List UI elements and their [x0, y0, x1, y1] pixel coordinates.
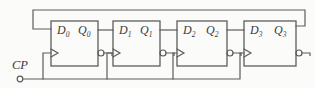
- flipflop-2: D2 Q2: [177, 21, 241, 66]
- clock-wedge-icon: [244, 49, 251, 57]
- d3-input-label: D3: [249, 23, 263, 39]
- clock-wedge-icon: [177, 49, 184, 57]
- d2-input-label: D2: [182, 23, 196, 39]
- q3-output-label: Q3: [274, 23, 287, 39]
- inverter-bubble-icon: [160, 50, 166, 56]
- q2-output-label: Q2: [206, 23, 219, 39]
- d1-input-label: D1: [118, 23, 131, 39]
- q1-output-label: Q1: [140, 23, 152, 39]
- flipflop-1: D1 Q1: [113, 21, 174, 66]
- qbar-stub-wire: [302, 53, 310, 56]
- clock-wedge-icon: [51, 49, 58, 57]
- d0-input-label: D0: [56, 23, 70, 39]
- flipflop-3: D3 Q3: [244, 21, 310, 66]
- inverter-bubble-icon: [227, 50, 233, 56]
- ring-counter-circuit-diagram: CP D0 Q0 D1 Q1 D2 Q2 D3 Q3: [0, 0, 315, 88]
- qbar-stub-wire: [104, 53, 112, 56]
- cp-label: CP: [12, 58, 28, 72]
- q0-output-label: Q0: [78, 23, 91, 39]
- clock-branch-ff1-wire: [107, 53, 113, 79]
- clock-branch-ff0-wire: [43, 53, 51, 79]
- inverter-bubble-icon: [296, 50, 302, 56]
- feedback-wire-q3-to-d0: [33, 10, 305, 29]
- flipflop-0: D0 Q0: [51, 21, 112, 66]
- clock-wedge-icon: [113, 49, 120, 57]
- cp-terminal-icon: [17, 76, 23, 82]
- inverter-bubble-icon: [98, 50, 104, 56]
